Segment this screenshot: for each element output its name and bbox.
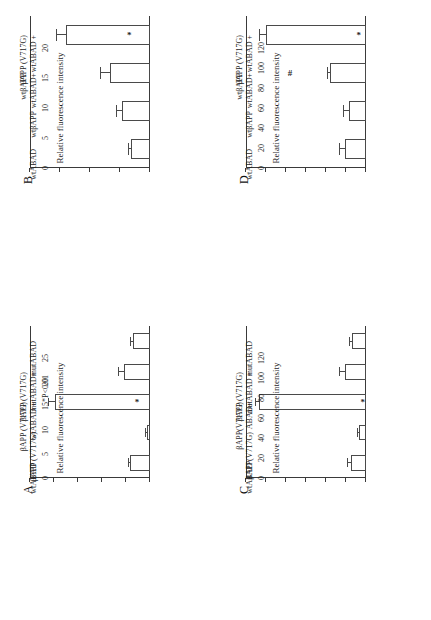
y-axis-tick-label: 10 <box>42 426 50 434</box>
category-label: wtABAD+ <box>29 73 38 108</box>
category-label: βAPP (V717G) <box>19 35 28 84</box>
y-axis-tick-label: 120 <box>258 42 266 54</box>
y-axis-tick <box>345 478 346 482</box>
y-axis-tick-label: 0 <box>42 166 50 170</box>
category-label: wtABAD + <box>29 35 38 72</box>
error-bar <box>57 35 66 36</box>
bar <box>345 364 367 380</box>
error-bar <box>260 35 267 36</box>
error-bar <box>131 341 133 342</box>
y-axis-tick-label: 60 <box>258 414 266 422</box>
y-axis-tick-label: 60 <box>258 104 266 112</box>
category-label: mutABAD <box>29 341 38 376</box>
y-axis-tick-label: 20 <box>42 44 50 52</box>
error-bar <box>129 149 131 150</box>
y-axis-tick-label: 100 <box>258 62 266 74</box>
significance-marker: * <box>127 31 132 40</box>
error-bar-cap <box>327 67 328 78</box>
figure-root: 05101520wtABADwtβAPPwtABAD+wtβAPP*wtABAD… <box>0 0 431 620</box>
y-axis-tick <box>285 168 286 172</box>
error-bar-cap <box>145 428 146 437</box>
error-bar-cap <box>347 458 348 467</box>
panel-letter: D <box>238 175 250 184</box>
y-axis-tick <box>345 168 346 172</box>
category-label: mutABAD + <box>245 372 254 414</box>
category-label: wtβAPP <box>29 111 38 138</box>
error-bar <box>101 73 111 74</box>
bar <box>351 455 366 471</box>
panel-d: 020406080100120wtABADwtβAPP#wtABAD+wtβAP… <box>216 0 431 310</box>
y-axis-tick <box>119 168 120 172</box>
y-axis-tick <box>285 478 286 482</box>
y-axis-tick <box>365 168 366 172</box>
bar <box>131 139 150 159</box>
error-bar-cap <box>255 398 256 407</box>
y-axis-tick-label: 25 <box>42 354 50 362</box>
error-bar-cap <box>100 67 101 78</box>
y-axis-title: Relative fluorescence intensity <box>56 53 65 164</box>
significance-marker: * <box>357 31 362 40</box>
category-label: βAPP (V717G) <box>235 372 244 421</box>
error-bar-cap <box>259 29 260 40</box>
significance-marker: * <box>135 398 140 407</box>
y-axis-tick <box>149 478 150 482</box>
y-axis-tick-label: 15 <box>42 402 50 410</box>
y-axis-tick-label: 40 <box>258 124 266 132</box>
y-axis-tick <box>305 168 306 172</box>
error-bar <box>119 371 124 372</box>
category-label: wtABAD + <box>245 35 254 72</box>
bar <box>130 455 150 471</box>
bar <box>110 63 150 83</box>
error-bar <box>129 462 130 463</box>
y-axis-tick-label: 80 <box>258 394 266 402</box>
error-bar-cap <box>130 337 131 346</box>
y-axis-tick <box>149 168 150 172</box>
error-bar <box>328 73 329 74</box>
y-axis-tick-label: 0 <box>258 166 266 170</box>
plot-area <box>30 16 150 168</box>
error-bar <box>117 111 122 112</box>
panel-letter: C <box>238 486 250 494</box>
error-bar-cap <box>116 105 117 116</box>
category-label: mutABAD+ <box>29 372 38 412</box>
panel-b-plot <box>30 16 150 168</box>
panel-c: 020406080100120wtABADβAPP(V717G)*ABAD+βA… <box>216 310 431 620</box>
y-axis-tick-label: 100 <box>258 372 266 384</box>
y-axis-tick <box>365 478 366 482</box>
y-axis-tick <box>325 478 326 482</box>
y-axis-tick-label: 20 <box>258 144 266 152</box>
y-axis-tick-label: 15 <box>42 74 50 82</box>
y-axis-tick <box>125 478 126 482</box>
bar <box>66 25 150 45</box>
error-bar <box>358 432 359 433</box>
y-axis-tick-label: 40 <box>258 434 266 442</box>
y-axis-tick-label: 0 <box>42 476 50 480</box>
y-axis-tick-label: 0 <box>258 476 266 480</box>
panel-a: 0510152025wtABADβAPP (V717G)*wtABAD +βAP… <box>0 310 216 620</box>
y-axis-tick-label: 5 <box>42 452 50 456</box>
bar <box>266 25 366 45</box>
y-axis-tick <box>77 478 78 482</box>
y-axis-tick-label: 80 <box>258 84 266 92</box>
bar <box>147 425 150 441</box>
error-bar <box>344 111 349 112</box>
category-label: mutABAD <box>245 341 254 376</box>
error-bar-cap <box>339 367 340 376</box>
category-label: wtβAPP <box>245 111 254 138</box>
y-axis-tick-label: 20 <box>258 454 266 462</box>
category-label: βAPP (V717G) <box>19 372 28 421</box>
error-bar-cap <box>128 143 129 154</box>
bar <box>345 139 366 159</box>
error-bar-cap <box>349 337 350 346</box>
panel-letter: A <box>22 485 34 494</box>
error-bar-cap <box>56 29 57 40</box>
bar <box>330 63 367 83</box>
significance-marker: * <box>361 398 366 407</box>
bar <box>359 425 367 441</box>
bar <box>349 101 367 121</box>
error-bar <box>340 371 345 372</box>
bar <box>122 101 150 121</box>
error-bar-cap <box>118 367 119 376</box>
error-bar <box>348 462 352 463</box>
y-axis-tick <box>59 168 60 172</box>
